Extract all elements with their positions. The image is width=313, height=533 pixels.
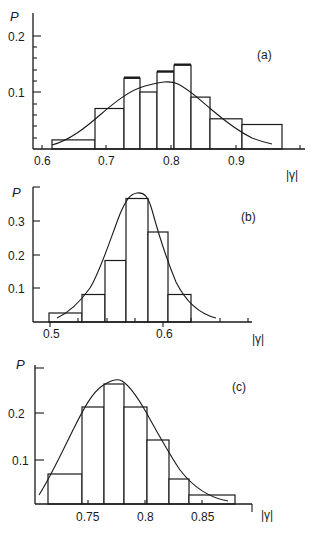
panel-b-label: (b) — [241, 210, 256, 224]
panel-a-label: (a) — [257, 48, 272, 62]
panel-a-xtick-0.9: 0.9 — [228, 154, 245, 168]
panel-c-ytick-0.1: 0.1 — [12, 454, 29, 468]
bar — [126, 199, 148, 323]
panel-b-ytick-0.2: 0.2 — [8, 249, 25, 263]
panel-b-x-axis-label: |γ| — [252, 332, 264, 346]
bar — [82, 407, 104, 504]
panel-b-xtick-0.6: 0.6 — [156, 327, 173, 341]
bar — [168, 295, 191, 323]
panel-c-xtick-0.85: 0.85 — [191, 510, 215, 524]
panel-b-ytick-0.3: 0.3 — [8, 215, 25, 229]
bar — [104, 384, 124, 504]
bar — [242, 125, 282, 150]
panel-a-xtick-0.6: 0.6 — [34, 154, 51, 168]
bar — [148, 232, 168, 322]
bar — [191, 97, 210, 149]
panel-a-y-axis-label: P — [10, 9, 19, 24]
bar — [157, 72, 174, 149]
bar — [169, 479, 189, 504]
panel-a-x-axis-label: |γ| — [286, 168, 298, 182]
bar — [140, 92, 157, 149]
bar — [82, 295, 105, 323]
panel-a-bars — [52, 65, 282, 150]
bar — [124, 407, 147, 504]
panel-b: P 0.3 0.2 0.1 (b) |γ| 0.5 0.6 — [8, 185, 264, 346]
panel-c-ytick-0.2: 0.2 — [8, 407, 25, 421]
panel-a-xtick-0.7: 0.7 — [98, 154, 115, 168]
panel-c-xtick-0.8: 0.8 — [137, 510, 154, 524]
bar — [105, 261, 126, 323]
bar — [52, 140, 95, 149]
panel-b-xtick-0.5: 0.5 — [43, 327, 60, 341]
bar — [174, 65, 191, 149]
panel-a-ytick-0.2: 0.2 — [8, 30, 25, 44]
bar — [147, 440, 169, 504]
panel-c-label: (c) — [232, 380, 246, 394]
bar — [210, 119, 242, 149]
panel-a: P 0.2 0.1 (a) |γ| 0.6 0.7 0.8 0.9 — [8, 9, 305, 182]
bar — [49, 313, 82, 322]
panel-a-ytick-0.1: 0.1 — [8, 86, 25, 100]
panel-c: P 0.2 0.1 (c) |γ| 0.75 0.8 0.85 — [8, 357, 273, 524]
panel-c-x-axis-label: |γ| — [261, 508, 273, 522]
bar — [48, 474, 82, 504]
panel-a-xtick-0.8: 0.8 — [163, 154, 180, 168]
panel-b-ytick-0.1: 0.1 — [8, 282, 25, 296]
panel-c-xtick-0.75: 0.75 — [76, 510, 100, 524]
histogram-figure: P 0.2 0.1 (a) |γ| 0.6 0.7 0.8 0.9 — [0, 0, 313, 533]
panel-c-bars — [48, 384, 235, 504]
panel-b-y-axis-label: P — [12, 185, 21, 200]
panel-c-y-axis-label: P — [16, 357, 25, 372]
bar — [95, 109, 124, 150]
panel-b-bars — [49, 199, 191, 323]
